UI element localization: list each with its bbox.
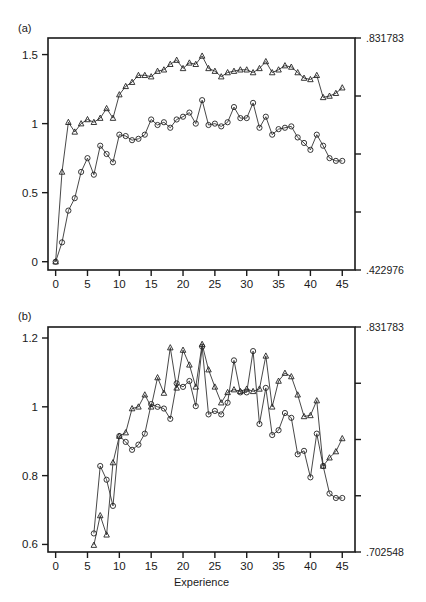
x-axis-tick-label: 35 [272, 560, 285, 572]
y-axis-tick-label: 1.5 [22, 49, 38, 61]
series-line-circle [56, 100, 343, 262]
data-point-triangle [340, 435, 346, 440]
x-axis-tick-label: 0 [52, 278, 58, 290]
panel-b-plot: 0.60.811.2.831783.7025480510152025303540… [0, 300, 426, 602]
right-axis-bottom-label: .422976 [366, 264, 404, 276]
x-axis-tick-label: 15 [145, 278, 158, 290]
plot-frame [48, 327, 355, 552]
x-axis-tick-label: 45 [336, 560, 349, 572]
y-axis-tick-label: 1 [32, 401, 38, 413]
right-axis-top-label: .831783 [366, 32, 404, 44]
x-axis-tick-label: 30 [240, 278, 253, 290]
right-axis-bottom-label: .702548 [366, 546, 404, 558]
y-axis-tick-label: 0.5 [22, 187, 38, 199]
x-axis-tick-label: 10 [113, 278, 126, 290]
y-axis-tick-label: 1.2 [22, 332, 38, 344]
series-line-triangle [56, 56, 343, 262]
data-point-triangle [340, 85, 346, 90]
y-axis-tick-label: 0 [32, 256, 38, 268]
panel-a-tag: (a) [18, 22, 31, 34]
x-axis-tick-label: 20 [177, 560, 190, 572]
x-axis-tick-label: 20 [177, 278, 190, 290]
x-axis-tick-label: 15 [145, 560, 158, 572]
plot-frame [48, 38, 355, 270]
x-axis-tick-label: 5 [84, 560, 90, 572]
right-axis-top-label: .831783 [366, 321, 404, 333]
x-axis-tick-label: 25 [208, 278, 221, 290]
chart-panel-a: (a) 00.511.5.831783.42297605101520253035… [0, 0, 426, 300]
x-axis-tick-label: 40 [304, 560, 317, 572]
x-axis-tick-label: 0 [52, 560, 58, 572]
y-axis-tick-label: 0.8 [22, 470, 38, 482]
series-line-triangle [94, 344, 342, 545]
x-axis-tick-label: 30 [240, 560, 253, 572]
panel-a-plot: 00.511.5.831783.422976051015202530354045 [0, 0, 426, 300]
x-axis-tick-label: 5 [84, 278, 90, 290]
x-axis-tick-label: 40 [304, 278, 317, 290]
x-axis-tick-label: 10 [113, 560, 126, 572]
x-axis-tick-label: 45 [336, 278, 349, 290]
series-line-circle [94, 347, 342, 534]
x-axis-title: Experience [174, 576, 229, 588]
x-axis-tick-label: 35 [272, 278, 285, 290]
y-axis-tick-label: 1 [32, 118, 38, 130]
chart-panel-b: (b) 0.60.811.2.831783.702548051015202530… [0, 300, 426, 602]
figure-root: (a) 00.511.5.831783.42297605101520253035… [0, 0, 426, 602]
y-axis-tick-label: 0.6 [22, 538, 38, 550]
panel-b-tag: (b) [18, 310, 31, 322]
x-axis-tick-label: 25 [208, 560, 221, 572]
